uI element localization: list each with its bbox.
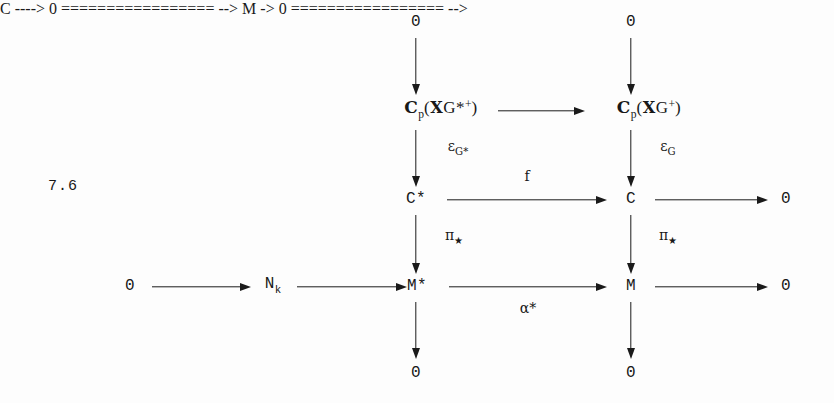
- node-zero-bottom-row-left: 0: [125, 278, 135, 294]
- pi-star-right-sub: ★: [668, 235, 677, 246]
- arrow-c-star-to-c-plain: [447, 195, 606, 205]
- node-c-plain: C: [626, 191, 636, 207]
- arrow-m-plain-to-zero: [655, 282, 767, 292]
- script-c-glyph-2: C: [617, 97, 631, 117]
- pi-star-left-sub: ★: [454, 235, 463, 246]
- node-zero-bottom-left: 0: [411, 365, 421, 381]
- node-m-plain: M: [626, 278, 636, 294]
- n-k-base: N: [265, 275, 275, 293]
- arrow-m-star-to-zero: [410, 302, 422, 358]
- node-zero-top-left: 0: [411, 14, 421, 30]
- arrow-cp-star-to-c-star: [410, 130, 422, 186]
- node-zero-mid-right: 0: [781, 191, 791, 207]
- fraktur-x-glyph-2: X: [643, 98, 656, 117]
- arrow-label-epsilon-g-star: εG*: [448, 139, 468, 158]
- arrow-label-pi-star-left: π★: [445, 228, 463, 247]
- arrow-m-plain-to-zero-vertical: [625, 302, 637, 358]
- cp-star-close-paren: ): [472, 98, 478, 117]
- arrow-c-star-to-m-star: [410, 215, 422, 273]
- node-zero-bottom-right: 0: [626, 365, 636, 381]
- cp-plain-close-paren: ): [675, 98, 681, 117]
- arrow-zero-to-cp-plain: [625, 38, 637, 94]
- arrow-label-alpha-star: α*: [520, 301, 536, 315]
- script-c-glyph: C: [404, 97, 418, 117]
- arrow-zero-to-nk: [152, 282, 250, 292]
- node-m-star: M*: [407, 278, 427, 294]
- epsilon-g-sub: G: [668, 146, 676, 157]
- node-n-k: Nk: [265, 276, 282, 295]
- cp-star-star: *: [456, 98, 465, 117]
- node-c-star: C*: [406, 191, 426, 207]
- n-k-sub: k: [275, 284, 282, 296]
- epsilon-g-star-sub: G*: [455, 146, 468, 157]
- arrow-m-star-to-m-plain: [449, 282, 606, 292]
- arrow-c-plain-to-zero: [655, 195, 767, 205]
- arrow-cp-plain-to-c-plain: [625, 130, 637, 186]
- arrow-label-pi-star-right: π★: [659, 228, 677, 247]
- fraktur-x-glyph: X: [430, 98, 443, 117]
- equation-number: 7.6: [48, 178, 78, 195]
- pi-star-right-base: π: [659, 227, 668, 243]
- cp-plain-g: G: [656, 98, 669, 117]
- node-zero-top-right: 0: [626, 14, 636, 30]
- cp-star-g: G: [443, 98, 456, 117]
- commutative-diagram-figure: 7.6 0 0 Cp(XG*+) Cp(XG+) εG* εG C ----> …: [0, 0, 834, 403]
- node-cp-xg-star-plus: Cp(XG*+): [404, 99, 477, 121]
- arrow-label-f: f: [524, 169, 529, 183]
- pi-star-left-base: π: [445, 227, 454, 243]
- arrow-cp-star-to-cp-plain: [498, 106, 584, 116]
- arrow-zero-to-cp-star: [410, 38, 422, 94]
- arrow-c-plain-to-m-plain: [625, 215, 637, 273]
- node-cp-xg-plus: Cp(XG+): [617, 99, 681, 121]
- arrow-label-epsilon-g: εG: [660, 139, 675, 158]
- arrow-nk-to-m-star: [297, 282, 406, 292]
- node-zero-bottom-row-right: 0: [781, 278, 791, 294]
